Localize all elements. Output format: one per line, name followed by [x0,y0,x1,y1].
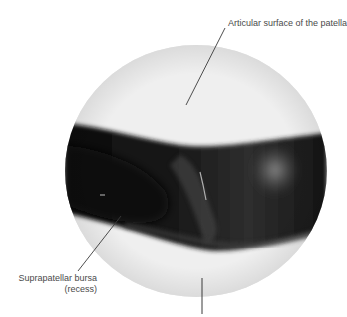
label-articular-surface-patella: Articular surface of the patella [228,18,347,29]
label-suprapatellar-bursa-line1: Suprapatellar bursa [3,273,97,284]
arthroscopy-figure: Articular surface of the patella Suprapa… [0,0,347,317]
patella-leader-line [186,28,225,105]
bursa-leader-line [78,216,121,271]
leader-lines [0,0,347,317]
label-suprapatellar-bursa-line2: (recess) [3,284,97,295]
label-suprapatellar-bursa: Suprapatellar bursa (recess) [3,273,97,295]
